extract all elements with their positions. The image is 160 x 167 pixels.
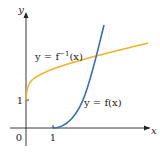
x-axis-label: x xyxy=(151,125,157,136)
y-axis-arrow-icon xyxy=(24,12,29,18)
y-tick-label: 1 xyxy=(17,95,23,106)
inverse-label: y = f−1(x) xyxy=(34,50,83,62)
function-label: y = f(x) xyxy=(83,97,122,108)
graph-figure: y x 0 1 1 y = f(x) y = f−1(x) xyxy=(0,0,160,167)
origin-label: 0 xyxy=(16,132,22,143)
x-axis-arrow-icon xyxy=(144,126,150,131)
function-curve xyxy=(53,25,104,128)
y-axis-label: y xyxy=(17,4,24,15)
graph-svg: y x 0 1 1 y = f(x) y = f−1(x) xyxy=(0,0,160,167)
x-tick-label: 1 xyxy=(50,132,56,143)
